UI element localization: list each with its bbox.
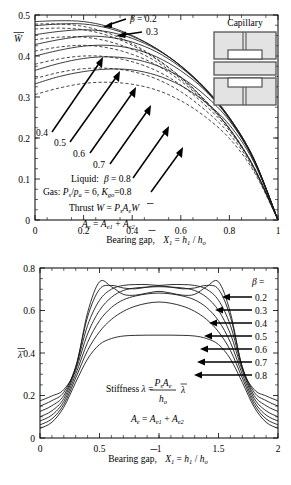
- y-tick-label: 0.2: [23, 391, 35, 401]
- legend-label: 0.6: [255, 345, 267, 355]
- annotation-stiffness-label: Stiffness λ =: [106, 384, 153, 394]
- y-tick-label: 0.8: [23, 264, 35, 274]
- stiffness-chart-panel: 00.511.5200.20.40.60.8 λ̄ Bearing gap, X…: [0, 250, 291, 485]
- annotation-beta-03: 0.3: [146, 27, 158, 37]
- x-tick-label: 0: [38, 444, 43, 454]
- legend-label: 0.5: [255, 332, 267, 342]
- y-tick-label: 0.6: [23, 306, 35, 316]
- annotation-lambda-bar: λ: [180, 385, 185, 395]
- legend-label: 0.8: [255, 371, 267, 381]
- x-tick-label: 2: [276, 444, 281, 454]
- y-tick-label: 0.1: [18, 175, 30, 185]
- inset-diagram: [214, 32, 276, 105]
- thrust-y-axis-label: W̄: [14, 34, 23, 44]
- figure-root: 00.20.40.60.8100.10.20.30.40.5 W̄ Bearin…: [0, 0, 291, 485]
- legend-label: 0.7: [255, 358, 267, 368]
- thrust-chart-panel: 00.20.40.60.8100.10.20.30.40.5 W̄ Bearin…: [0, 0, 291, 245]
- stiffness-x-axis-label: Bearing gap, X1 = h1 / ho: [108, 454, 208, 465]
- y-tick-label: 0.3: [18, 93, 30, 103]
- y-tick-label: 0.4: [18, 52, 30, 62]
- y-tick-label: 0.2: [18, 134, 30, 144]
- x-tick-label: 1.5: [213, 444, 225, 454]
- y-tick-label: 0.5: [18, 11, 30, 21]
- x-tick-label: 1: [157, 444, 162, 454]
- thrust-chart-svg: 00.20.40.60.8100.10.20.30.40.5 W̄ Bearin…: [0, 0, 291, 245]
- x-tick-label: 0: [33, 226, 38, 236]
- x-tick-label: 0.5: [94, 444, 106, 454]
- annotation-beta-02: β = 0.2: [129, 14, 157, 24]
- annotation-beta-06: 0.6: [73, 149, 85, 159]
- annotation-area-equation: Ae = Ae1 + Ae2: [81, 219, 136, 230]
- legend-title: β =: [251, 277, 264, 287]
- y-tick-label: 0.4: [23, 349, 35, 359]
- y-tick-label: 0: [30, 434, 35, 444]
- annotation-beta-07: 0.7: [93, 160, 105, 170]
- x-tick-label: 0.8: [223, 226, 235, 236]
- stiffness-chart-svg: 00.511.5200.20.40.60.8 λ̄ Bearing gap, X…: [0, 250, 291, 485]
- legend-label: 0.3: [255, 306, 267, 316]
- legend-label: 0.2: [255, 293, 267, 303]
- legend-label: 0.4: [255, 319, 267, 329]
- x-tick-label: 1: [276, 226, 281, 236]
- inset-title: Capillary: [227, 18, 263, 28]
- y-tick-label: 0: [25, 216, 30, 226]
- annotation-beta-05: 0.5: [54, 138, 66, 148]
- thrust-x-axis-label: Bearing gap, X1 = h1 / ho: [106, 235, 206, 245]
- annotation-beta-04: 0.4: [36, 128, 48, 138]
- annotation-gas-params: Gas: Ps/pa = 6, Kgo=0.8: [43, 187, 132, 198]
